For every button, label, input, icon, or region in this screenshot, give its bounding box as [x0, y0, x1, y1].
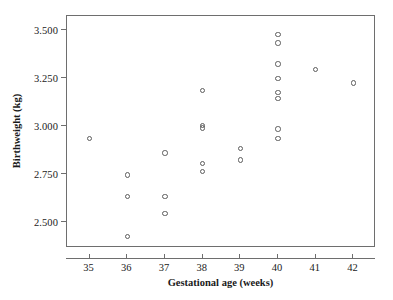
data-point	[275, 90, 280, 95]
x-axis-tick	[239, 254, 240, 259]
data-point	[200, 125, 205, 130]
y-axis-tick-label: 2.750	[34, 169, 58, 180]
data-point	[351, 80, 356, 85]
y-axis-title: Birthweight (kg)	[11, 94, 22, 168]
x-axis-tick-label: 35	[83, 262, 94, 273]
x-axis-tick-label: 36	[121, 262, 132, 273]
x-axis-tick-label: 40	[272, 262, 283, 273]
data-point	[162, 211, 167, 216]
x-axis-tick-label: 37	[159, 262, 170, 273]
plot-area-frame: 2.5002.7503.0003.2503.500	[66, 15, 375, 247]
data-point	[125, 194, 130, 199]
data-point	[125, 172, 130, 177]
data-point	[275, 126, 280, 131]
y-axis-tick: 3.250	[61, 77, 67, 78]
x-axis-tick	[126, 254, 127, 259]
data-point	[200, 161, 205, 166]
y-axis-tick: 2.750	[61, 173, 67, 174]
data-point	[275, 96, 280, 101]
data-point	[275, 32, 280, 37]
data-point	[313, 67, 318, 72]
data-point	[200, 169, 205, 174]
x-axis-title: Gestational age (weeks)	[66, 277, 375, 288]
data-point	[275, 136, 280, 141]
data-point	[200, 88, 205, 93]
x-axis-tick-label: 41	[309, 262, 320, 273]
x-axis-tick-label: 42	[347, 262, 358, 273]
scatter-plot-figure: 2.5002.7503.0003.2503.500 35363738394041…	[0, 0, 393, 300]
y-axis-tick: 3.000	[61, 125, 67, 126]
y-axis-tick-label: 2.500	[34, 217, 58, 228]
x-axis-tick	[277, 254, 278, 259]
x-axis-tick	[352, 254, 353, 259]
y-axis-tick-label: 3.500	[34, 25, 58, 36]
x-axis-tick	[164, 254, 165, 259]
x-axis-tick	[202, 254, 203, 259]
y-axis-tick-label: 3.250	[34, 73, 58, 84]
x-axis-tick	[89, 254, 90, 259]
x-axis-tick-label: 39	[234, 262, 245, 273]
data-point	[275, 40, 280, 45]
x-axis-line: 3536373839404142	[66, 258, 375, 259]
data-point	[275, 61, 280, 66]
y-axis-tick: 3.500	[61, 29, 67, 30]
y-axis-tick-label: 3.000	[34, 121, 58, 132]
data-point	[125, 234, 130, 239]
data-point	[87, 136, 92, 141]
data-point	[162, 150, 167, 155]
data-points-layer	[67, 16, 374, 246]
data-point	[275, 76, 280, 81]
y-axis-tick: 2.500	[61, 221, 67, 222]
data-point	[162, 194, 167, 199]
x-axis-tick-label: 38	[196, 262, 207, 273]
data-point	[238, 146, 243, 151]
data-point	[238, 157, 243, 162]
x-axis-tick	[315, 254, 316, 259]
